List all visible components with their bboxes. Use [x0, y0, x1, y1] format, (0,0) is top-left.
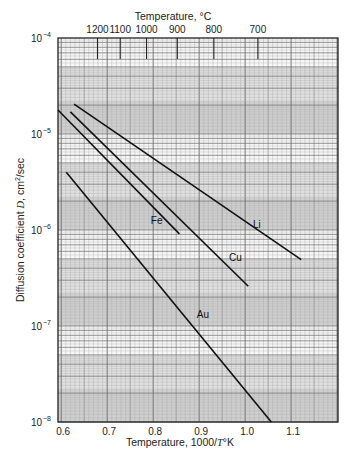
band-medium	[58, 259, 338, 293]
celsius-tick-label: 700	[250, 24, 267, 35]
band-dark	[58, 389, 338, 422]
band-medium	[58, 67, 338, 101]
y-axis-title-prefix: Diffusion coefficient	[14, 209, 26, 303]
x-tick-label: 0.6	[56, 426, 70, 437]
series-label-li: Li	[253, 219, 261, 230]
band-medium	[58, 163, 338, 197]
y-tick-label: 10	[31, 129, 43, 140]
y-tick-label: 10	[31, 225, 43, 236]
y-tick-base: 10	[31, 417, 43, 428]
y-tick-exponent: −4	[43, 31, 51, 38]
band-medium	[58, 355, 338, 389]
x-tick-label: 0.7	[102, 426, 116, 437]
celsius-tick-label: 900	[169, 24, 186, 35]
series-label-cu: Cu	[229, 252, 242, 263]
celsius-tick-label: 1200	[86, 24, 109, 35]
y-tick-exponent: −5	[43, 127, 51, 134]
y-tick-label: 10	[31, 417, 43, 428]
y-axis-title: Diffusion coefficient D, cm2/sec	[14, 158, 26, 302]
y-axis-title-suffix: /sec	[14, 158, 26, 177]
y-tick-exponent: −8	[43, 415, 51, 422]
y-tick-label: 10	[31, 321, 43, 332]
y-tick-label: 10	[31, 33, 43, 44]
x-axis-title-prefix: Temperature, 1000/	[126, 436, 217, 448]
series-label-fe: Fe	[151, 215, 163, 226]
y-tick-exponent: −7	[43, 319, 51, 326]
band-dark	[58, 101, 338, 134]
diffusion-chart: LiCuFeAu 0.60.70.80.91.01.1 10−410−510−6…	[0, 0, 353, 459]
y-tick-base: 10	[31, 321, 43, 332]
celsius-tick-labels: 120011001000900800700	[86, 24, 266, 35]
celsius-tick-label: 1100	[109, 24, 131, 35]
x-axis-title-suffix: °K	[223, 436, 234, 448]
series-label-au: Au	[197, 309, 209, 320]
x-tick-label: 1.1	[286, 426, 300, 437]
y-axis-title-mid: , cm	[14, 181, 26, 201]
celsius-tick-label: 1000	[135, 24, 158, 35]
y-tick-base: 10	[31, 129, 43, 140]
x-tick-label: 1.0	[240, 426, 254, 437]
y-tick-base: 10	[31, 33, 43, 44]
x-axis-title: Temperature, 1000/T°K	[126, 436, 234, 448]
celsius-tick-label: 800	[206, 24, 223, 35]
y-tick-base: 10	[31, 225, 43, 236]
x2-axis-title: Temperature, °C	[135, 10, 212, 22]
y-tick-exponent: −6	[43, 223, 51, 230]
y-tick-labels: 10−410−510−610−710−8	[31, 31, 51, 428]
